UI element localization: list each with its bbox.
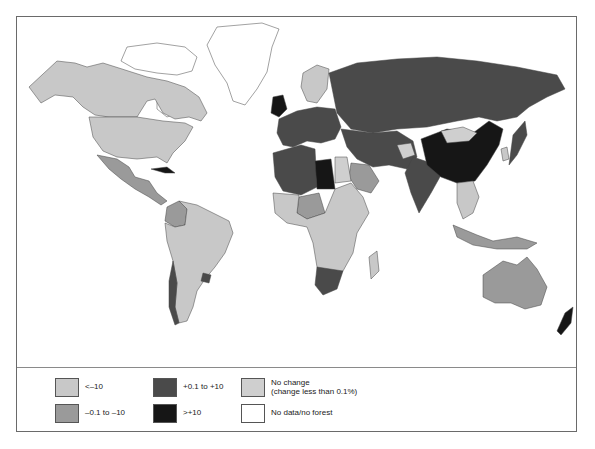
legend-label: No change (change less than 0.1%)	[271, 378, 357, 396]
region-russia	[329, 57, 565, 133]
region-north-africa	[273, 145, 317, 195]
legend-swatch	[241, 378, 265, 397]
legend-item-minus01-to-minus10: –0.1 to –10	[55, 404, 125, 423]
region-libya	[315, 159, 335, 189]
legend-item-plus01-to-plus10: +0.1 to +10	[153, 378, 223, 397]
legend-swatch	[241, 404, 265, 423]
legend-item-lt-minus10: <–10	[55, 378, 103, 397]
map-figure-frame: <–10 –0.1 to –10 +0.1 to +10 >+10 No cha…	[16, 16, 577, 432]
region-greenland	[207, 23, 279, 105]
legend-swatch	[153, 404, 177, 423]
legend-swatch	[153, 378, 177, 397]
map-legend: <–10 –0.1 to –10 +0.1 to +10 >+10 No cha…	[17, 368, 576, 431]
legend-swatch	[55, 404, 79, 423]
legend-label: >+10	[183, 404, 201, 417]
region-indonesia	[453, 225, 537, 249]
legend-label: –0.1 to –10	[85, 404, 125, 417]
legend-label: No data/no forest	[271, 404, 332, 417]
world-map-svg	[17, 17, 576, 367]
region-europe	[277, 107, 341, 147]
legend-label: +0.1 to +10	[183, 378, 223, 391]
region-new-zealand	[557, 307, 573, 335]
world-map	[17, 17, 576, 367]
legend-item-no-data: No data/no forest	[241, 404, 332, 423]
region-scandinavia	[301, 65, 329, 103]
region-uruguay	[201, 273, 211, 283]
legend-item-no-change: No change (change less than 0.1%)	[241, 378, 357, 397]
region-united-kingdom	[271, 95, 287, 117]
legend-swatch	[55, 378, 79, 397]
region-japan	[509, 121, 527, 165]
region-united-states	[89, 117, 193, 163]
region-mexico-central-america	[97, 155, 167, 205]
region-sub-saharan-africa	[273, 183, 369, 279]
legend-label: <–10	[85, 378, 103, 391]
region-australia	[483, 257, 547, 309]
region-arctic-islands	[121, 43, 197, 75]
region-korea	[501, 147, 509, 161]
region-south-africa	[315, 267, 343, 295]
legend-item-gt-plus10: >+10	[153, 404, 201, 423]
region-madagascar	[369, 251, 379, 279]
region-cuba	[151, 167, 175, 173]
region-southeast-asia	[457, 181, 479, 219]
region-egypt	[335, 157, 351, 183]
